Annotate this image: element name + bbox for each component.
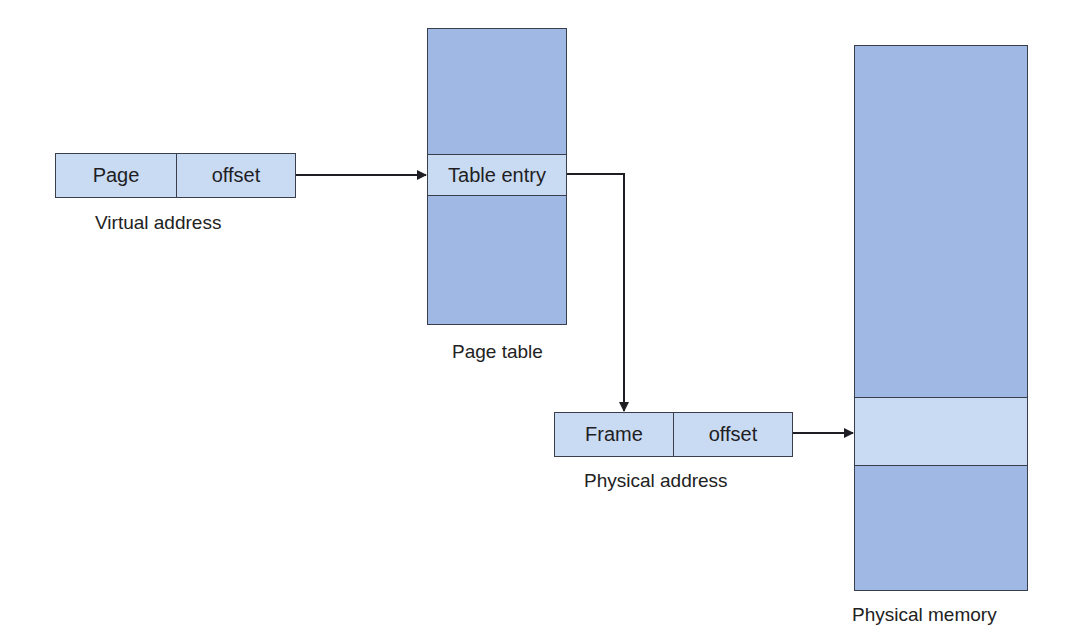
arrow-table-entry-to-physical-address bbox=[567, 174, 624, 411]
arrows-layer bbox=[0, 0, 1077, 644]
